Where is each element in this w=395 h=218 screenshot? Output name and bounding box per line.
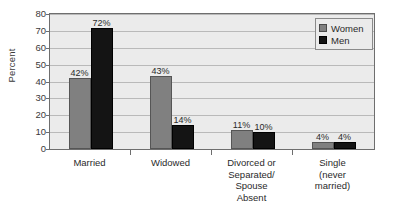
y-axis-tick-label: 20 [22, 109, 46, 120]
x-axis-tick-mark [130, 150, 131, 155]
y-axis-tick-label: 30 [22, 92, 46, 103]
y-axis-tick-label: 50 [22, 58, 46, 69]
x-axis-category-label: Divorced orSeparated/SpouseAbsent [211, 157, 292, 203]
category-label-line: Single [292, 157, 373, 169]
legend-item-women: Women [319, 22, 368, 34]
category-label-line: Spouse [211, 180, 292, 192]
x-axis-tick-mark [292, 150, 293, 155]
bar-group: 43%14% [131, 14, 212, 149]
y-axis-tick-label: 60 [22, 41, 46, 52]
legend-item-men: Men [319, 34, 368, 46]
legend-swatch-women-icon [319, 24, 327, 32]
bar-men-1: 14% [172, 125, 194, 149]
x-axis-category-label: Married [49, 157, 130, 169]
legend-swatch-men-icon [319, 36, 327, 44]
bar-data-label: 42% [70, 68, 88, 78]
bar-group: 11%10% [212, 14, 293, 149]
y-axis-tick-label: 10 [22, 126, 46, 137]
x-axis-category-label: Single(nevermarried) [292, 157, 373, 192]
bar-data-label: 10% [254, 122, 272, 132]
bar-men-0: 72% [91, 28, 113, 150]
bar-data-label: 14% [173, 115, 191, 125]
legend-label-women: Women [331, 23, 364, 34]
bar-data-label: 72% [92, 18, 110, 28]
bar-men-2: 10% [253, 132, 275, 149]
legend-label-men: Men [331, 35, 349, 46]
category-tick-marks [49, 150, 375, 155]
bar-women-3: 4% [312, 142, 334, 149]
x-axis-tick-mark [211, 150, 212, 155]
bar-chart: Percent 01020304050607080 42%72%43%14%11… [0, 0, 395, 218]
bar-data-label: 4% [338, 132, 351, 142]
y-axis-tick-label: 0 [22, 143, 46, 154]
category-label-line: (never [292, 169, 373, 181]
chart-legend: Women Men [315, 18, 373, 50]
bar-women-1: 43% [150, 76, 172, 149]
category-label-line: Married [49, 157, 130, 169]
category-label-line: Separated/ [211, 169, 292, 181]
y-axis-tick-label: 40 [22, 75, 46, 86]
x-axis-category-label: Widowed [130, 157, 211, 169]
bar-women-2: 11% [231, 130, 253, 149]
y-axis-tick-labels: 01020304050607080 [22, 7, 46, 155]
y-axis-tick-label: 70 [22, 24, 46, 35]
bar-data-label: 43% [151, 66, 169, 76]
bar-data-label: 4% [316, 132, 329, 142]
category-label-line: Widowed [130, 157, 211, 169]
bar-data-label: 11% [233, 120, 250, 130]
category-label-line: Divorced or [211, 157, 292, 169]
x-axis-category-labels: MarriedWidowedDivorced orSeparated/Spous… [49, 157, 375, 215]
bar-women-0: 42% [69, 78, 91, 149]
y-axis-title: Percent [6, 31, 17, 101]
bar-men-3: 4% [334, 142, 356, 149]
category-label-line: married) [292, 180, 373, 192]
y-axis-tick-label: 80 [22, 8, 46, 19]
bar-group: 42%72% [50, 14, 131, 149]
category-label-line: Absent [211, 192, 292, 204]
